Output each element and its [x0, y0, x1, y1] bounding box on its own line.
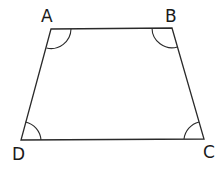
vertex-label-b: B	[165, 6, 177, 26]
trapezium-diagram: A B C D	[0, 0, 223, 177]
quadrilateral-abcd	[21, 28, 204, 140]
angle-arc-c	[184, 122, 199, 139]
vertex-label-d: D	[12, 144, 25, 164]
vertex-label-c: C	[203, 142, 215, 162]
angle-arc-b	[152, 28, 178, 48]
vertex-label-a: A	[41, 6, 53, 26]
angle-arc-d	[26, 122, 42, 140]
